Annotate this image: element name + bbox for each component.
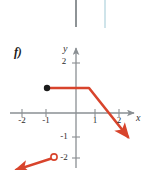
- function-branch-main: [44, 85, 128, 137]
- ray-lower-left-segment: [16, 158, 53, 170]
- function-branch-lower-left: [16, 154, 57, 170]
- tick-label-y-2: 2: [57, 56, 71, 66]
- tick-label-y--2: -2: [57, 152, 71, 162]
- closed-endpoint-marker: [44, 85, 50, 91]
- tick-label-y--1: -1: [57, 131, 71, 141]
- tick-marks-group: [22, 63, 119, 158]
- tick-label-x--1: -1: [39, 115, 53, 125]
- coordinate-plot: [0, 0, 146, 170]
- tick-label-x--2: -2: [15, 115, 29, 125]
- axis-label-x: x: [136, 112, 140, 123]
- tick-label-x-1: 1: [88, 115, 102, 125]
- tick-label-x-2: 2: [112, 115, 126, 125]
- figure-panel: f): [0, 0, 146, 170]
- axis-label-y: y: [63, 43, 67, 54]
- axes-group: [10, 48, 134, 168]
